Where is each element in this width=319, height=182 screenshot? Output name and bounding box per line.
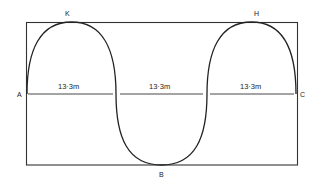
segment-label-3: 13·3m (240, 82, 261, 91)
segment-label-1: 13·3m (58, 82, 79, 91)
point-label-k: K (65, 10, 70, 17)
point-label-h: H (254, 10, 259, 17)
segment-label-2: 13·3m (149, 82, 170, 91)
snake-curve (27, 22, 296, 165)
track-diagram: A K B H C 13·3m 13·3m 13·3m (0, 0, 319, 182)
point-label-a: A (17, 91, 22, 98)
point-label-c: C (300, 91, 305, 98)
point-label-b: B (159, 171, 164, 178)
